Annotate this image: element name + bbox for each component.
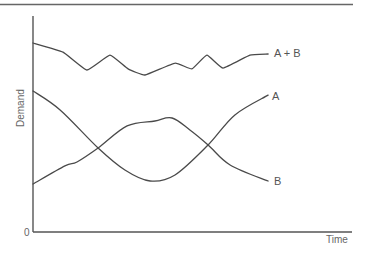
curves <box>33 43 268 184</box>
x-axis-label: Time <box>326 234 348 245</box>
label-b: B <box>274 175 281 187</box>
demand-time-chart: 0 Time Demand A + B A B <box>0 0 371 255</box>
y-axis-label: Demand <box>15 89 26 127</box>
label-a: A <box>272 90 280 102</box>
origin-label: 0 <box>24 227 30 238</box>
curve-a-plus-b <box>33 43 268 75</box>
label-a-plus-b: A + B <box>274 47 301 59</box>
curve-b <box>33 91 268 181</box>
axes <box>33 16 352 232</box>
curve-a <box>33 118 268 184</box>
